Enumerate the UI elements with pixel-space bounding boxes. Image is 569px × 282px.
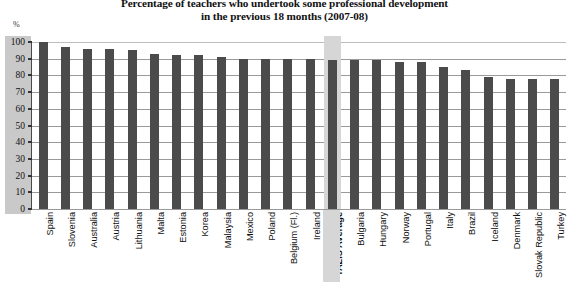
x-axis-category-label: Spain	[46, 212, 55, 236]
x-axis-category-label: Belgium (Fl.)	[290, 212, 299, 264]
bar[interactable]	[128, 50, 137, 209]
x-axis-category-label: Estonia	[179, 212, 188, 243]
x-axis-category-label: Portugal	[424, 212, 433, 246]
bar[interactable]	[217, 57, 226, 209]
x-axis-category-label: Norway	[402, 212, 411, 243]
x-axis-category-label: Mexico	[246, 212, 255, 241]
y-axis-unit-label: %	[13, 20, 20, 29]
x-axis-category-label: Italy	[446, 212, 455, 229]
bar[interactable]	[461, 70, 470, 209]
y-axis-tick	[28, 125, 32, 127]
x-axis-category-label: Malta	[157, 212, 166, 234]
chart-title-line-2: in the previous 18 months (2007-08)	[0, 10, 569, 23]
x-axis-category-label: Austria	[112, 212, 121, 241]
y-axis-tick-label: 80	[3, 71, 25, 81]
x-axis-category-label: Denmark	[513, 212, 522, 249]
x-axis-category-label: Slovenia	[68, 212, 77, 247]
bar[interactable]	[239, 59, 248, 209]
x-axis-category-label: Brazil	[468, 212, 477, 235]
bar[interactable]	[439, 67, 448, 209]
bar[interactable]	[306, 59, 315, 209]
y-axis-tick	[28, 191, 32, 193]
bar[interactable]	[283, 59, 292, 209]
x-axis-category-label: Ireland	[313, 212, 322, 240]
bar[interactable]	[528, 79, 537, 209]
bar[interactable]	[194, 55, 203, 209]
x-axis-category-label: Malaysia	[224, 212, 233, 248]
y-axis-tick	[28, 108, 32, 110]
bar[interactable]	[350, 60, 359, 209]
y-axis-tick	[28, 141, 32, 143]
y-axis-tick-label: 40	[3, 138, 25, 148]
bar[interactable]	[417, 62, 426, 209]
x-axis-category-label: Slovak Republic	[535, 212, 544, 278]
bar[interactable]	[506, 79, 515, 209]
y-axis-tick-label: 60	[3, 105, 25, 115]
plot-area	[31, 42, 566, 210]
bar[interactable]	[61, 47, 70, 209]
chart-title-line-1: Percentage of teachers who undertook som…	[121, 0, 448, 9]
x-axis-category-label: Bulgaria	[357, 212, 366, 246]
bar[interactable]	[372, 60, 381, 209]
y-axis-tick	[28, 41, 32, 43]
y-axis-tick-label: 90	[3, 55, 25, 65]
y-axis-tick	[28, 58, 32, 60]
x-axis-category-label: Lithuania	[135, 212, 144, 249]
bar[interactable]	[550, 79, 559, 209]
y-axis-tick	[28, 208, 32, 210]
y-axis-tick	[28, 91, 32, 93]
chart-figure: Percentage of teachers who undertook som…	[0, 0, 569, 282]
gridline	[32, 209, 566, 210]
x-axis-category-label: Korea	[201, 212, 210, 237]
x-axis-category-label: Turkey	[557, 212, 566, 240]
bar[interactable]	[395, 62, 404, 209]
bar[interactable]	[328, 60, 337, 209]
bar[interactable]	[261, 59, 270, 209]
y-axis-tick-label: 30	[3, 155, 25, 165]
y-axis-tick-label: 0	[3, 205, 25, 215]
highlight-label-band	[323, 210, 340, 282]
bar[interactable]	[150, 54, 159, 209]
y-axis-tick-label: 100	[3, 38, 25, 48]
x-axis-category-label: Australia	[90, 212, 99, 248]
x-axis-category-label: Iceland	[491, 212, 500, 242]
bar[interactable]	[105, 49, 114, 209]
bar[interactable]	[484, 77, 493, 209]
y-axis-tick	[28, 175, 32, 177]
y-axis-tick-label: 10	[3, 188, 25, 198]
x-axis-category-label: Poland	[268, 212, 277, 241]
gridline	[32, 42, 566, 43]
y-axis-tick	[28, 74, 32, 76]
bar[interactable]	[83, 49, 92, 209]
y-axis-tick-label: 70	[3, 88, 25, 98]
y-axis-tick-label: 50	[3, 122, 25, 132]
y-axis-tick	[28, 158, 32, 160]
bar[interactable]	[172, 55, 181, 209]
y-axis-tick-label: 20	[3, 172, 25, 182]
chart-title: Percentage of teachers who undertook som…	[0, 0, 569, 22]
x-axis-category-label: Hungary	[379, 212, 388, 247]
bar[interactable]	[39, 42, 48, 209]
